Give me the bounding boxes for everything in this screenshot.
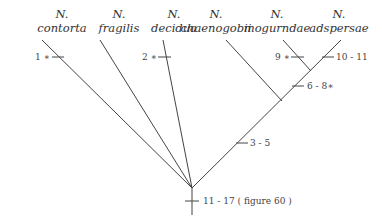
character-label-3-5: 3 - 5: [250, 138, 270, 148]
character-label-2: 2 ∗: [142, 52, 157, 62]
taxon-contorta: N.contorta: [37, 7, 86, 35]
character-label-9: 9 ∗: [275, 52, 290, 62]
taxon-fragilis: N.fragilis: [99, 7, 140, 35]
character-label-1: 1 ∗: [35, 52, 50, 62]
taxon-adspersae: N.adspersae: [309, 7, 368, 35]
taxon-chaenogobii: N.chaenogobii: [181, 7, 252, 35]
taxon-mogurndae: N.mogurndae: [244, 7, 311, 35]
character-label-11-17: 11 - 17 ( figure 60 ): [203, 196, 292, 206]
character-label-10-11: 10 - 11: [336, 52, 368, 62]
character-label-6-8: 6 - 8∗: [307, 81, 333, 91]
